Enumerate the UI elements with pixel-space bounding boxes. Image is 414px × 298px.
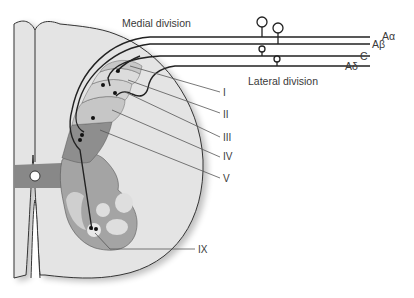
c-cell-body [259, 46, 265, 52]
lamina-label-II: II [223, 109, 229, 120]
lamina-label-IV: IV [223, 151, 233, 162]
fiber-label-c: C [360, 50, 368, 62]
a-delta-cell-body [274, 56, 280, 62]
fiber-label-a-delta: Aδ [345, 60, 358, 72]
a-beta-cell-body [273, 23, 283, 33]
central-canal [30, 171, 40, 181]
lateral-division-label: Lateral division [248, 75, 318, 87]
lamina-label-I: I [223, 87, 226, 98]
fiber-label-a-beta: Aβ [372, 38, 385, 50]
a-alpha-cell-body [257, 17, 267, 27]
lamina-label-V: V [223, 173, 230, 184]
spinal-cord-diagram: Medial division Lateral division Aα Aβ C… [0, 0, 414, 298]
lamina-label-III: III [223, 132, 231, 143]
medial-division-label: Medial division [122, 17, 191, 29]
ganglion-cells [257, 17, 283, 66]
lamina-label-IX: IX [198, 244, 208, 255]
